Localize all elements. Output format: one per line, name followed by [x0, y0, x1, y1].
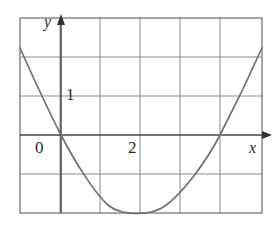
- origin-tick-label: 0: [35, 139, 44, 156]
- figure-background: [0, 0, 276, 227]
- parabola-graph-figure: y x 0 1 2: [0, 0, 276, 227]
- x-axis-label: x: [249, 140, 256, 156]
- y-axis-label: y: [44, 14, 51, 30]
- y-tick-label-1: 1: [66, 86, 75, 103]
- x-tick-label-2: 2: [128, 139, 137, 156]
- graph-canvas: [0, 0, 276, 227]
